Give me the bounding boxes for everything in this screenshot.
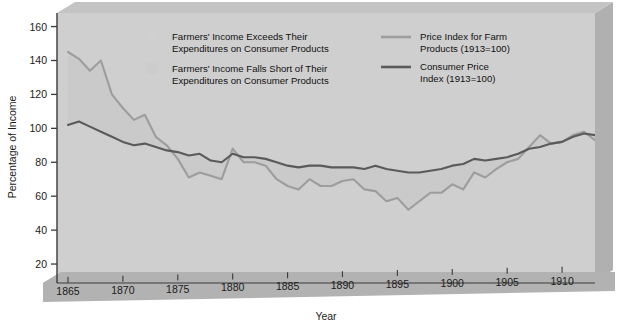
y-tick-label-20: 20 bbox=[35, 258, 47, 270]
x-tick-label-1870: 1870 bbox=[111, 284, 135, 296]
y-tick-label-100: 100 bbox=[29, 122, 47, 134]
legend-left-label-0-0: Farmers' Income Exceeds Their bbox=[172, 31, 308, 42]
x-tick-label-1895: 1895 bbox=[386, 278, 410, 290]
y-tick-label-40: 40 bbox=[35, 224, 47, 236]
x-tick-label-1905: 1905 bbox=[495, 276, 519, 288]
y-axis-ticks: 20406080100120140160 bbox=[29, 21, 57, 270]
plot-top-face bbox=[57, 2, 613, 13]
y-tick-label-60: 60 bbox=[35, 190, 47, 202]
y-tick-label-80: 80 bbox=[35, 156, 47, 168]
y-tick-label-140: 140 bbox=[29, 54, 47, 66]
x-tick-label-1865: 1865 bbox=[56, 285, 80, 297]
x-tick-label-1885: 1885 bbox=[276, 280, 300, 292]
x-tick-label-1875: 1875 bbox=[166, 283, 190, 295]
x-tick-label-1900: 1900 bbox=[441, 277, 465, 289]
legend-right-label-1-0: Consumer Price bbox=[420, 61, 489, 72]
legend-left-swatch-0 bbox=[146, 31, 157, 42]
y-axis-title: Percentage of Income bbox=[6, 95, 18, 198]
legend-left-swatch-1 bbox=[146, 63, 157, 74]
legend-right-label-1-1: Index (1913=100) bbox=[420, 73, 495, 84]
legend-left-label-1-0: Farmers' Income Falls Short of Their bbox=[172, 63, 328, 74]
legend-right-label-0-1: Products (1913=100) bbox=[420, 43, 510, 54]
legend-left-label-0-1: Expenditures on Consumer Products bbox=[172, 43, 329, 54]
y-tick-label-120: 120 bbox=[29, 88, 47, 100]
line-chart: 2040608010012014016018651870187518801885… bbox=[0, 0, 621, 325]
y-tick-label-160: 160 bbox=[29, 21, 47, 33]
legend-left-label-1-1: Expenditures on Consumer Products bbox=[172, 75, 329, 86]
x-tick-label-1890: 1890 bbox=[331, 279, 355, 291]
x-tick-label-1880: 1880 bbox=[221, 281, 245, 293]
x-axis-title: Year bbox=[315, 310, 337, 322]
x-tick-label-1910: 1910 bbox=[550, 275, 574, 287]
legend-right-label-0-0: Price Index for Farm bbox=[420, 31, 507, 42]
chart-figure: 2040608010012014016018651870187518801885… bbox=[0, 0, 621, 325]
plot-side-face bbox=[595, 2, 613, 281]
